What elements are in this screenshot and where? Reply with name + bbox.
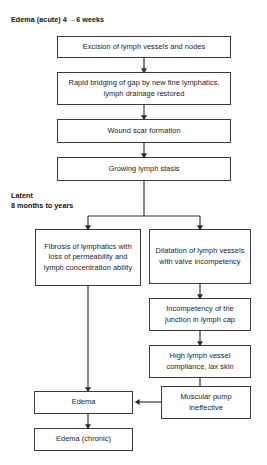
node-excision: Excision of lymph vessels and nodes: [57, 36, 231, 58]
stage-label-latent: Latent 8 months to years: [11, 191, 73, 212]
node-edema-chronic: Edema (chronic): [34, 428, 133, 451]
node-bridging-label: Rapid bridging of gap by new fine lympha…: [61, 78, 227, 98]
node-stasis: Growing lymph stasis: [57, 157, 231, 181]
node-bridging: Rapid bridging of gap by new fine lympha…: [57, 72, 231, 105]
node-pump-label: Muscular pump ineffective: [165, 392, 247, 412]
node-compliance-label: High lymph vessel compliance, lax skin: [153, 351, 247, 371]
node-fibrosis: Fibrosis of lymphatics with loss of perm…: [35, 229, 141, 286]
node-excision-label: Excision of lymph vessels and nodes: [61, 42, 227, 52]
node-edema: Edema: [34, 391, 133, 414]
node-scar: Wound scar formation: [57, 119, 231, 143]
node-dilatation-label: Dilatation of lymph vessels with valve i…: [153, 246, 247, 266]
flowchart-canvas: Edema (acute) 4 →6 weeks Latent 8 months…: [0, 0, 267, 465]
node-junction: Incompetency of the junction in lymph ca…: [149, 298, 251, 331]
node-scar-label: Wound scar formation: [61, 126, 227, 136]
node-fibrosis-label: Fibrosis of lymphatics with loss of perm…: [39, 242, 137, 273]
node-edema-label: Edema: [38, 397, 129, 407]
node-compliance: High lymph vessel compliance, lax skin: [149, 345, 251, 378]
node-dilatation: Dilatation of lymph vessels with valve i…: [149, 229, 251, 284]
node-pump: Muscular pump ineffective: [161, 386, 251, 419]
stage-label-acute: Edema (acute) 4 →6 weeks: [11, 15, 104, 25]
node-stasis-label: Growing lymph stasis: [61, 164, 227, 174]
node-edema-chronic-label: Edema (chronic): [38, 434, 129, 444]
node-junction-label: Incompetency of the junction in lymph ca…: [153, 304, 247, 324]
